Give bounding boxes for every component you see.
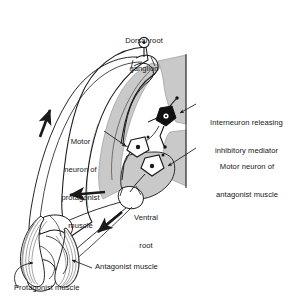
label-motor-neuron-protagonist: Motor neuron of protagonist muscle	[55, 118, 106, 250]
label-ventral-root-line2: root	[122, 241, 170, 250]
label-protagonist-muscle: Protagonist muscle	[14, 283, 129, 292]
label-dorsal-root-ganglion-line2: ganglion	[98, 64, 190, 73]
label-ventral-root: Ventral root	[122, 194, 170, 269]
synapse-bouton-b	[162, 154, 165, 157]
label-ventral-root-line1: Ventral	[122, 213, 170, 222]
motor-neuron-antagonist-nucleus	[150, 164, 154, 168]
label-motor-neuron-protagonist-line3: protagonist	[55, 193, 106, 202]
label-motor-neuron-protagonist-line4: muscle	[55, 221, 106, 230]
reflex-arc-diagram: Dorsal root ganglion Interneuron releasi…	[0, 0, 298, 299]
label-dorsal-root-ganglion: Dorsal root ganglion	[98, 17, 190, 92]
label-motor-neuron-protagonist-line1: Motor	[55, 137, 106, 146]
label-antagonist-muscle: Antagonist muscle	[95, 262, 200, 271]
afferent-arrow[interactable]	[40, 110, 50, 137]
synapse-bouton-a	[147, 136, 150, 139]
motor-neuron-protagonist-nucleus	[136, 145, 140, 149]
label-interneuron-line1: Interneuron releasing	[197, 118, 296, 127]
label-motor-neuron-antagonist-line2: antagonist muscle	[199, 190, 295, 199]
label-motor-neuron-antagonist: Motor neuron of antagonist muscle	[199, 143, 295, 218]
interneuron-bouton-up	[175, 96, 178, 99]
label-dorsal-root-ganglion-line1: Dorsal root	[98, 36, 190, 45]
label-motor-neuron-antagonist-line1: Motor neuron of	[199, 162, 295, 171]
label-motor-neuron-protagonist-line2: neuron of	[55, 165, 106, 174]
interneuron-nucleolus	[165, 115, 167, 117]
interneuron-bouton-down	[163, 145, 166, 148]
interneuron-process-down	[160, 126, 164, 146]
